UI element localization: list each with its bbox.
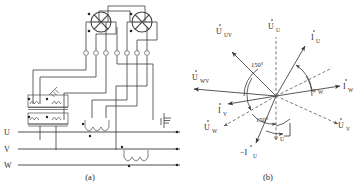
polarity-dot [82,123,84,125]
phasor-accent-dot [219,24,221,26]
phase-label-u: U [4,128,10,137]
phasor-accent-dot [340,118,342,120]
circuit-svg: U V W (a) [0,0,180,185]
svg-text:U: U [316,38,320,44]
svg-text:W: W [212,128,218,134]
phasor-accent-dot [195,70,197,72]
polarity-dot [46,116,48,118]
terminal [84,51,89,56]
label-u-uv: U UV [216,24,232,38]
svg-text:UV: UV [224,32,232,38]
polarity-dot [28,116,30,118]
phasor-accent-dot [271,19,273,21]
polarity-dot [130,13,133,16]
polarity-dot [130,30,133,33]
label-u-wv: U WV [192,70,209,84]
svg-text:φ: φ [312,86,316,93]
phasor-diagram-panel: U UV U U I U I [180,0,357,185]
vector-u-uv [232,52,276,96]
svg-text:U: U [276,27,280,33]
svg-text:I: I [343,82,346,91]
caption-a: (a) [85,172,95,182]
arc-150-upper-b [244,69,258,96]
terminal [94,51,99,56]
label-i-u: I U [311,30,320,44]
angle-150-lower-label: 150° [256,116,269,123]
phasor-accent-dot [313,30,315,32]
label-u-w: U W [204,120,218,134]
phase-label-v: V [4,145,10,154]
svg-text:−I: −I [240,148,248,157]
svg-text:V: V [223,111,227,117]
label-neg-i-u: −I U [240,145,257,159]
svg-text:U: U [216,27,222,36]
arc-phi-u [276,119,290,126]
terminal [135,51,140,56]
vector-u-wv [194,89,276,96]
terminal [104,51,109,56]
arc-phi-w [296,65,312,90]
polarity-dot [89,135,91,137]
polarity-dot [46,98,48,100]
phase-busbars [18,131,180,167]
circuit-diagram-panel: U V W (a) [0,0,180,185]
polarity-dot [28,98,30,100]
svg-text:U: U [253,153,257,159]
current-transformer-u [82,120,109,137]
terminal [115,51,120,56]
phasor-labels: U UV U U I U I [192,19,354,159]
phasor-accent-dot [219,103,221,105]
angle-150-upper-label: 150° [251,61,264,68]
meter-element-2 [130,12,152,32]
figure-root: U V W (a) [0,0,357,185]
svg-text:U: U [192,73,198,82]
svg-text:V: V [346,126,350,132]
reference-corner [284,123,290,136]
vector-u-v [276,96,338,124]
phasor-accent-dot [250,145,252,147]
fuse-icon [49,87,59,97]
phasor-accent-dot [345,79,347,81]
svg-text:U: U [268,22,274,31]
label-i-v: I V [218,103,227,117]
voltage-transformer-2 [28,113,68,150]
phase-label-w: W [4,161,12,170]
svg-text:WV: WV [200,78,209,84]
label-u-u: U U [268,19,280,33]
label-u-v: U V [338,118,350,132]
current-circuit-wiring [92,56,147,150]
polarity-dot [121,146,123,148]
terminal-strip [84,51,150,56]
svg-text:W: W [318,89,324,95]
svg-text:U: U [280,136,284,142]
meter-top-bus [99,6,145,22]
voltage-transformer-1 [28,87,68,110]
phasor-svg: U UV U U I U I [180,0,357,185]
svg-text:W: W [348,87,354,93]
svg-text:φ: φ [274,133,278,140]
svg-text:I: I [311,33,314,42]
svg-text:U: U [204,123,210,132]
polarity-dot [88,13,91,16]
angle-phi-w-label: φ W [312,86,324,95]
svg-text:U: U [338,121,344,130]
terminal [125,51,130,56]
vector-i-v [228,96,276,104]
earth-ground-icon [161,113,171,128]
label-i-w: I W [343,79,354,93]
caption-b: (b) [263,172,273,182]
terminal [145,51,150,56]
voltage-circuit-wiring [33,56,153,120]
polarity-dot [88,30,91,33]
svg-text:I: I [218,106,221,115]
phasor-accent-dot [207,120,209,122]
